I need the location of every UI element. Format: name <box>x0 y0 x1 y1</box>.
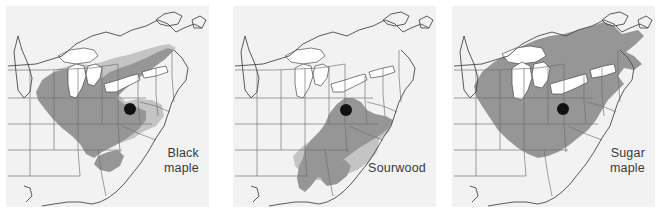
map-graphic-black-maple <box>6 6 209 207</box>
locality-dot[interactable] <box>340 104 352 116</box>
map-panel-black-maple[interactable]: Black maple <box>6 6 209 207</box>
panel-label-sourwood: Sourwood <box>368 161 426 176</box>
map-graphic-sugar-maple <box>452 6 655 207</box>
locality-dot[interactable] <box>124 103 136 115</box>
locality-dot[interactable] <box>557 103 569 115</box>
map-graphic-sourwood <box>233 6 436 207</box>
panel-label-sugar-maple: Sugar maple <box>610 146 645 175</box>
range-map-figure: Black maple <box>0 0 662 220</box>
panel-label-black-maple: Black maple <box>164 146 199 175</box>
map-panel-sugar-maple[interactable]: Sugar maple <box>452 6 655 207</box>
map-panel-sourwood[interactable]: Sourwood <box>233 6 436 207</box>
